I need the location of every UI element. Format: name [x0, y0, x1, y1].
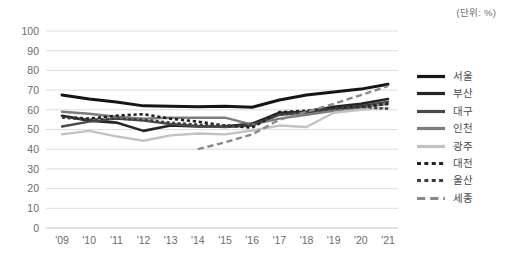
legend: 서울부산대구인천광주대전울산세종: [416, 70, 473, 205]
legend-swatch-icon: [416, 87, 446, 100]
legend-label: 세종: [453, 192, 473, 205]
x-axis-tick-label: '18: [300, 234, 314, 246]
y-axis-tick-label: 70: [27, 84, 39, 96]
legend-swatch-icon: [416, 140, 446, 153]
y-axis-tick-label: 100: [21, 25, 39, 37]
legend-swatch-icon: [416, 192, 446, 205]
legend-item[interactable]: 대전: [416, 157, 473, 170]
legend-label: 대전: [453, 157, 473, 170]
legend-label: 울산: [453, 174, 473, 187]
y-axis-tick-label: 80: [27, 64, 39, 76]
series-line: [62, 84, 388, 107]
x-axis-tick-label: '09: [55, 234, 69, 246]
legend-label: 광주: [453, 140, 473, 153]
y-axis-tick-label: 30: [27, 163, 39, 175]
legend-item[interactable]: 부산: [416, 87, 473, 100]
legend-label: 인천: [453, 122, 473, 135]
y-axis-tick-label: 40: [27, 143, 39, 155]
legend-item[interactable]: 광주: [416, 140, 473, 153]
x-axis-tick-label: '16: [245, 234, 259, 246]
y-axis-tick-label: 20: [27, 182, 39, 194]
legend-label: 부산: [453, 87, 473, 100]
y-axis-labels: 0102030405060708090100: [21, 25, 39, 234]
x-axis-tick-label: '20: [354, 234, 368, 246]
legend-item[interactable]: 대구: [416, 105, 473, 118]
x-axis-tick-label: '17: [272, 234, 286, 246]
legend-swatch-icon: [416, 122, 446, 135]
legend-swatch-icon: [416, 174, 446, 187]
legend-swatch-icon: [416, 70, 446, 83]
legend-label: 대구: [453, 105, 473, 118]
gridlines: [46, 31, 398, 228]
y-axis-tick-label: 0: [33, 222, 39, 234]
x-axis-labels: '09'10'11'12'13'14'15'16'17'18'19'20'21: [55, 234, 395, 246]
legend-item[interactable]: 울산: [416, 174, 473, 187]
legend-swatch-icon: [416, 157, 446, 170]
y-axis-tick-label: 60: [27, 104, 39, 116]
y-axis-tick-label: 90: [27, 45, 39, 57]
legend-label: 서울: [453, 70, 473, 83]
x-axis-tick-label: '15: [218, 234, 232, 246]
legend-swatch-icon: [416, 105, 446, 118]
x-axis-tick-label: '14: [191, 234, 205, 246]
x-axis-tick-label: '10: [82, 234, 96, 246]
chart-container: (단위: %) 0102030405060708090100 '09'10'11…: [0, 0, 506, 261]
y-axis-tick-label: 10: [27, 202, 39, 214]
x-axis-tick-label: '11: [110, 234, 123, 246]
legend-item[interactable]: 인천: [416, 122, 473, 135]
x-axis-tick-label: '21: [381, 234, 395, 246]
x-axis-tick-label: '13: [164, 234, 178, 246]
y-axis-tick-label: 50: [27, 123, 39, 135]
series-lines: [62, 84, 388, 149]
legend-item[interactable]: 세종: [416, 192, 473, 205]
x-axis-tick-label: '12: [137, 234, 151, 246]
legend-item[interactable]: 서울: [416, 70, 473, 83]
x-axis-tick-label: '19: [327, 234, 341, 246]
